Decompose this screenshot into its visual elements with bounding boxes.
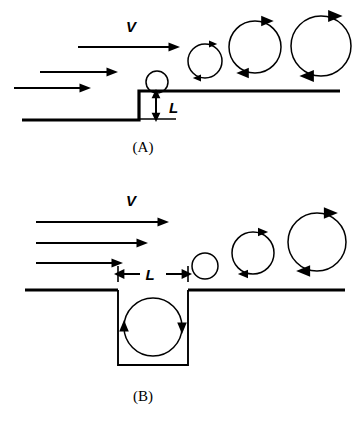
flow-arrow-1 — [78, 42, 180, 51]
vortex — [291, 10, 351, 82]
panel-b-cavity-vortex — [119, 298, 187, 356]
panel-a-vortices — [188, 10, 351, 82]
vortex — [232, 228, 274, 278]
cavity-vortex-arrow-head-down-icon — [177, 323, 187, 335]
panel-b-caption: (B) — [133, 388, 153, 405]
arrow-head-right-icon — [80, 83, 92, 92]
panel-a-caption: (A) — [133, 139, 154, 156]
panel-b-vortices — [232, 207, 346, 278]
panel-a-velocity-label: V — [126, 18, 138, 35]
flow-arrow-1 — [36, 217, 169, 226]
vortex-circle — [229, 21, 281, 73]
flow-arrow-3 — [14, 83, 91, 92]
flow-arrow-2 — [40, 67, 118, 76]
flow-arrow-3 — [36, 258, 123, 267]
vortex-circle — [291, 16, 351, 76]
fluid-flow-diagram: V L (A) — [0, 0, 362, 421]
arrow-head-left-icon — [114, 269, 124, 279]
vortex — [288, 207, 346, 277]
arrow-head-right-icon — [158, 217, 170, 226]
panel-b-length-label: L — [145, 266, 154, 283]
vortex — [188, 41, 222, 82]
panel-a-length-label: L — [169, 99, 178, 116]
arrow-head-right-icon — [182, 269, 192, 279]
panel-a: V L (A) — [14, 10, 351, 156]
vortex — [229, 16, 281, 78]
vortex-circle — [288, 213, 346, 271]
figure-container: V L (A) — [0, 0, 362, 421]
panel-b-flow-arrows — [36, 217, 169, 267]
cavity-vortex-arrow-head-up-icon — [119, 320, 129, 332]
panel-b-velocity-label: V — [126, 192, 138, 209]
flow-arrow-2 — [36, 238, 148, 247]
panel-a-flow-arrows — [14, 42, 180, 92]
panel-b-seed-circle — [192, 253, 218, 279]
panel-b-cavity-walls — [118, 290, 188, 365]
arrow-head-right-icon — [169, 42, 181, 51]
panel-b: V L (B) — [25, 192, 346, 405]
vortex-circle — [232, 232, 274, 274]
arrow-head-right-icon — [107, 67, 119, 76]
arrow-head-right-icon — [137, 238, 149, 247]
arrow-head-down-icon — [152, 113, 161, 122]
vortex-circle — [188, 44, 222, 78]
cavity-vortex-circle — [124, 298, 182, 356]
panel-a-step-surface — [22, 91, 340, 120]
